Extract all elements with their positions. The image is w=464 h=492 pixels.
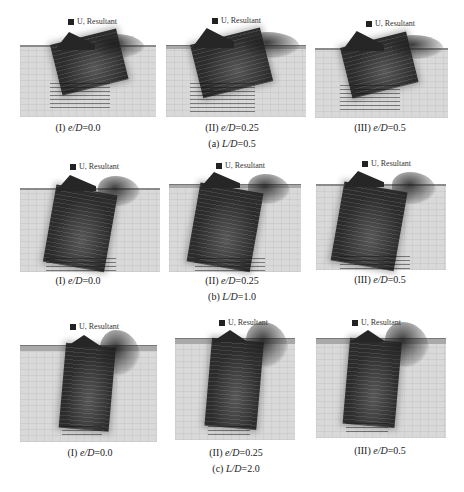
panel-caption: (I) e/D=0.0: [55, 275, 100, 286]
panel-caption: (I) e/D=0.0: [55, 122, 100, 133]
group-caption: (a) L/D=0.5: [208, 138, 255, 149]
vector-streaks: [208, 425, 250, 435]
panel-caption: (III) e/D=0.5: [354, 122, 406, 133]
pile-head: [212, 330, 248, 342]
displacement-vectors: [100, 330, 140, 375]
displacement-vectors: [385, 322, 429, 367]
legend: U, Resultant: [212, 16, 261, 25]
vector-streaks: [50, 80, 110, 108]
pile-head: [56, 175, 96, 191]
legend-swatch-icon: [362, 161, 368, 167]
pile-head: [344, 171, 384, 187]
legend-swatch-icon: [70, 324, 76, 330]
legend: U, Resultant: [362, 159, 411, 168]
legend-swatch-icon: [219, 320, 225, 326]
vector-streaks: [190, 82, 255, 112]
panel-caption: (I) e/D=0.0: [67, 447, 112, 458]
panel-caption: (II) e/D=0.25: [205, 122, 258, 133]
group-caption: (b) L/D=1.0: [208, 291, 256, 302]
legend-swatch-icon: [352, 320, 358, 326]
displacement-vectors: [95, 34, 145, 58]
panel-caption: (II) e/D=0.25: [209, 447, 262, 458]
legend-label: U, Resultant: [225, 161, 265, 170]
legend-swatch-icon: [216, 163, 222, 169]
legend: U, Resultant: [216, 161, 265, 170]
displacement-vectors: [248, 174, 290, 204]
vector-streaks: [46, 255, 116, 271]
displacement-vectors: [98, 176, 140, 206]
pile-head: [66, 335, 102, 347]
legend-swatch-icon: [68, 19, 74, 25]
displacement-vectors: [245, 32, 300, 58]
vector-streaks: [195, 255, 265, 271]
pile-head: [350, 330, 386, 342]
vector-streaks: [340, 255, 410, 269]
legend-label: U, Resultant: [221, 16, 261, 25]
legend-label: U, Resultant: [371, 159, 411, 168]
legend-label: U, Resultant: [375, 19, 415, 28]
legend-swatch-icon: [212, 18, 218, 24]
legend: U, Resultant: [366, 19, 415, 28]
panel-caption: (III) e/D=0.5: [354, 274, 406, 285]
panel-caption: (II) e/D=0.25: [205, 275, 258, 286]
vector-streaks: [62, 425, 102, 435]
displacement-vectors: [246, 322, 288, 367]
legend: U, Resultant: [68, 17, 117, 26]
legend-swatch-icon: [366, 21, 372, 27]
displacement-vectors: [392, 35, 444, 59]
group-caption: (c) L/D=2.0: [212, 463, 259, 474]
displacement-vectors: [392, 172, 436, 204]
legend-label: U, Resultant: [79, 162, 119, 171]
legend-label: U, Resultant: [77, 17, 117, 26]
panel-caption: (III) e/D=0.5: [354, 445, 406, 456]
legend: U, Resultant: [70, 162, 119, 171]
vector-streaks: [340, 82, 400, 110]
vector-streaks: [346, 422, 388, 432]
pile-head: [200, 172, 240, 188]
legend-swatch-icon: [70, 164, 76, 170]
